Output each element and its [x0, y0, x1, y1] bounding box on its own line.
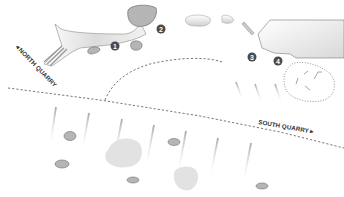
marker-3-label: 3 [250, 54, 254, 61]
landmass-ne-b [222, 15, 234, 23]
rock-s1 [64, 132, 76, 141]
rock-small-2 [131, 41, 143, 50]
marker-2-label: 2 [159, 26, 163, 33]
dashed-route [105, 58, 222, 100]
south-stripes [50, 107, 251, 184]
pale-area-2 [174, 166, 198, 190]
landmass-ne-a [185, 15, 210, 26]
pale-area-1 [105, 138, 142, 167]
south-rocks [55, 132, 268, 190]
marker-3[interactable]: 3 [248, 53, 257, 62]
rock-small-1 [88, 47, 100, 54]
east-landmass [258, 20, 344, 58]
dotted-enclosure [284, 62, 334, 101]
quarry-map: 1 2 3 4 ◄NORTH QUARRY SOUTH QUARRY► [0, 0, 344, 197]
marker-1-label: 1 [113, 43, 117, 50]
rock-s2 [55, 160, 69, 168]
ne-stripes [236, 82, 282, 104]
rock-large-north [128, 5, 157, 26]
marker-1[interactable]: 1 [111, 42, 120, 51]
south-quarry-label[interactable]: SOUTH QUARRY► [258, 118, 316, 135]
pier-ne [242, 22, 254, 35]
marker-4[interactable]: 4 [274, 57, 283, 66]
marker-4-label: 4 [276, 58, 280, 65]
marker-2[interactable]: 2 [157, 25, 166, 34]
rock-s3 [168, 139, 180, 146]
rock-s4 [127, 177, 139, 183]
enclosure-marks [296, 71, 322, 90]
rock-s5 [256, 183, 268, 189]
